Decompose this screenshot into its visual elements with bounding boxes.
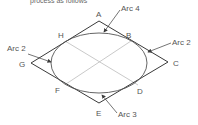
arc4-label: Arc 4 — [121, 4, 140, 13]
arc2-left-label: Arc 2 — [7, 44, 26, 53]
arc2-left-leader — [28, 54, 51, 62]
arc3-label: Arc 3 — [118, 110, 137, 119]
label-g: G — [19, 60, 25, 69]
label-b: B — [126, 31, 131, 40]
label-c: C — [173, 59, 179, 68]
label-f: F — [55, 86, 60, 95]
isometric-ellipse-diagram: process as follows A B C D E F G H Arc 4… — [0, 0, 198, 125]
arc3-leader — [102, 95, 117, 113]
label-e: E — [96, 109, 101, 118]
ellipse — [51, 33, 147, 93]
label-a: A — [96, 10, 102, 19]
label-d: D — [137, 87, 143, 96]
construction-line-h-d — [65, 41, 138, 85]
arc2-right-leader — [148, 43, 171, 52]
label-h: H — [58, 31, 64, 40]
arc2-right-label: Arc 2 — [172, 38, 191, 47]
partial-caption: process as follows — [30, 0, 88, 5]
